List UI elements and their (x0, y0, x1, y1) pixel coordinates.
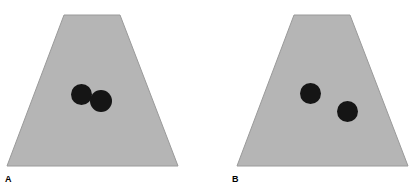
trapezoid-shape (237, 15, 408, 166)
figure-container: A B (0, 0, 417, 194)
trapezoid-shape (7, 15, 178, 166)
black-circle-1 (71, 84, 92, 105)
black-circle-1 (300, 83, 321, 104)
black-circle-2 (337, 101, 358, 122)
panel-a: A (0, 0, 208, 194)
panel-b: B (208, 0, 417, 194)
panel-b-label: B (232, 174, 239, 184)
panel-a-graphic (0, 0, 208, 172)
panel-b-graphic (208, 0, 417, 172)
black-circle-2 (90, 90, 112, 112)
panel-a-label: A (5, 174, 12, 184)
